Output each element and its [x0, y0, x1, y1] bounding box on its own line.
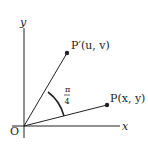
point-p-dot — [105, 103, 109, 107]
ray-to-p — [24, 105, 107, 126]
point-p-label: P(x, y) — [110, 92, 145, 105]
point-p-prime-dot — [65, 51, 69, 55]
y-axis-label: y — [19, 16, 27, 29]
angle-arc — [48, 92, 64, 116]
angle-denominator: 4 — [65, 97, 70, 106]
x-axis-label: x — [122, 120, 129, 133]
rotation-diagram: y x O P′(u, v) P(x, y) π 4 — [0, 0, 148, 149]
point-p-prime-label: P′(u, v) — [71, 39, 110, 52]
ray-to-p-prime — [24, 53, 67, 126]
origin-label: O — [10, 125, 19, 138]
angle-numerator: π — [65, 85, 70, 94]
